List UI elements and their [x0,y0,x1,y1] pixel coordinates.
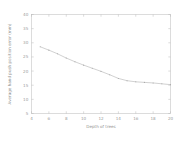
data-point-marker [92,68,93,69]
data-series-line [40,47,170,85]
data-point-marker [109,74,110,75]
data-point-marker [83,65,84,66]
x-tick-label: 14 [116,116,122,121]
x-tick-label: 20 [168,116,174,121]
data-point-marker [170,84,171,85]
data-point-marker [66,58,67,59]
data-point-marker [74,61,75,62]
data-point-marker [48,50,49,51]
y-tick-label: 15 [23,83,29,88]
y-tick-label: 5 [26,111,29,116]
y-tick-label: 40 [23,12,29,17]
data-point-marker [144,82,145,83]
x-tick-label: 6 [48,116,51,121]
y-tick-label: 30 [23,40,29,45]
chart-figure: 510152025303540468101214161820Depth of t… [0,0,180,146]
data-point-marker [161,83,162,84]
chart-plot-area: 510152025303540468101214161820Depth of t… [0,0,180,146]
y-tick-label: 10 [23,97,29,102]
y-tick-label: 35 [23,26,29,31]
x-axis-title: Depth of trees [86,124,115,129]
data-point-marker [153,82,154,83]
data-point-marker [118,78,119,79]
x-tick-label: 4 [30,116,33,121]
x-tick-label: 8 [65,116,68,121]
y-tick-label: 25 [23,54,29,59]
plot-frame [32,15,171,114]
x-tick-label: 18 [151,116,157,121]
data-point-marker [57,53,58,54]
data-point-marker [127,80,128,81]
data-point-marker [100,71,101,72]
x-tick-label: 12 [98,116,104,121]
x-tick-label: 10 [81,116,87,121]
data-point-marker [40,46,41,47]
y-tick-label: 20 [23,69,29,74]
data-point-marker [135,81,136,82]
x-tick-label: 16 [133,116,139,121]
y-axis-title: Average hand push position error (mm) [7,23,12,104]
